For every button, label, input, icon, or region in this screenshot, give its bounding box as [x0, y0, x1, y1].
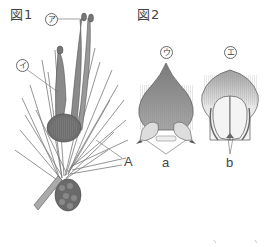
young-cone: [47, 114, 81, 142]
scale-u-illustration: [136, 63, 196, 154]
artifact-mark: [214, 240, 216, 243]
diagram-canvas: [0, 0, 266, 247]
label-b-lower: b: [226, 155, 233, 170]
label-a-circle: ア: [45, 13, 58, 26]
figure-2-title: 図2: [137, 4, 160, 23]
pine-branch-illustration: [15, 13, 128, 211]
leader-line-i: [22, 66, 58, 92]
label-a-lower: a: [162, 155, 169, 170]
label-e-circle: エ: [224, 46, 237, 59]
scale-e-illustration: [202, 70, 259, 154]
shoot-a: [70, 13, 94, 130]
label-u-circle: ウ: [160, 46, 173, 59]
figure-1-title: 図1: [10, 4, 33, 23]
label-A: A: [124, 154, 133, 169]
artifact-mark: [255, 240, 257, 243]
label-i-circle: イ: [16, 59, 29, 72]
